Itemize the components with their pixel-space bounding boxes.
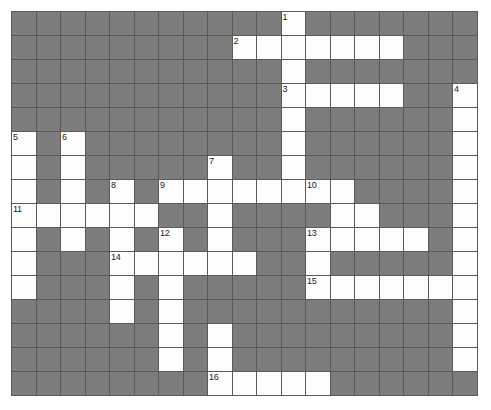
crossword-cell-open[interactable] (12, 276, 37, 300)
crossword-cell-open[interactable] (208, 324, 233, 348)
crossword-cell-open[interactable] (306, 372, 331, 396)
crossword-cell-open[interactable] (134, 252, 159, 276)
crossword-cell-open[interactable] (428, 276, 453, 300)
crossword-cell-open[interactable]: 2 (232, 36, 257, 60)
crossword-cell-open[interactable] (232, 252, 257, 276)
crossword-cell-open[interactable] (379, 228, 404, 252)
crossword-cell-open[interactable] (61, 156, 86, 180)
crossword-cell-open[interactable] (257, 36, 282, 60)
crossword-cell-open[interactable] (330, 36, 355, 60)
crossword-cell-block (428, 300, 453, 324)
crossword-cell-open[interactable]: 11 (12, 204, 37, 228)
crossword-cell-open[interactable]: 12 (159, 228, 184, 252)
crossword-cell-open[interactable] (208, 228, 233, 252)
crossword-cell-open[interactable] (159, 252, 184, 276)
crossword-cell-open[interactable] (208, 348, 233, 372)
crossword-cell-open[interactable] (453, 348, 478, 372)
crossword-cell-open[interactable] (453, 156, 478, 180)
crossword-cell-open[interactable] (159, 300, 184, 324)
crossword-cell-open[interactable]: 8 (110, 180, 135, 204)
crossword-cell-open[interactable]: 3 (281, 84, 306, 108)
crossword-cell-open[interactable] (453, 204, 478, 228)
crossword-cell-open[interactable]: 9 (159, 180, 184, 204)
crossword-cell-open[interactable] (453, 228, 478, 252)
crossword-cell-open[interactable]: 5 (12, 132, 37, 156)
crossword-cell-open[interactable] (85, 204, 110, 228)
crossword-cell-open[interactable] (183, 252, 208, 276)
crossword-cell-open[interactable]: 1 (281, 12, 306, 36)
crossword-cell-open[interactable] (281, 36, 306, 60)
crossword-cell-open[interactable] (281, 180, 306, 204)
crossword-cell-open[interactable] (61, 228, 86, 252)
crossword-cell-open[interactable]: 6 (61, 132, 86, 156)
crossword-cell-open[interactable]: 16 (208, 372, 233, 396)
crossword-cell-open[interactable] (379, 36, 404, 60)
crossword-cell-open[interactable] (281, 60, 306, 84)
crossword-cell-open[interactable] (110, 300, 135, 324)
crossword-cell-open[interactable] (453, 276, 478, 300)
crossword-cell-open[interactable]: 4 (453, 84, 478, 108)
crossword-cell-open[interactable] (379, 276, 404, 300)
crossword-cell-open[interactable] (281, 108, 306, 132)
crossword-cell-open[interactable] (355, 36, 380, 60)
crossword-row: 14 (12, 252, 478, 276)
crossword-cell-open[interactable] (306, 252, 331, 276)
crossword-cell-open[interactable] (257, 372, 282, 396)
crossword-cell-open[interactable] (12, 228, 37, 252)
crossword-cell-open[interactable] (110, 276, 135, 300)
crossword-cell-open[interactable] (453, 180, 478, 204)
crossword-cell-open[interactable] (330, 204, 355, 228)
crossword-cell-open[interactable]: 7 (208, 156, 233, 180)
crossword-cell-open[interactable] (404, 228, 429, 252)
crossword-cell-open[interactable] (379, 84, 404, 108)
crossword-cell-open[interactable] (281, 132, 306, 156)
crossword-cell-open[interactable] (453, 132, 478, 156)
crossword-cell-open[interactable] (330, 228, 355, 252)
crossword-cell-block (428, 132, 453, 156)
crossword-cell-open[interactable] (61, 180, 86, 204)
crossword-cell-open[interactable] (159, 348, 184, 372)
crossword-cell-open[interactable] (232, 372, 257, 396)
crossword-cell-open[interactable] (12, 252, 37, 276)
crossword-cell-open[interactable] (281, 156, 306, 180)
crossword-cell-open[interactable] (257, 180, 282, 204)
crossword-cell-open[interactable] (355, 84, 380, 108)
crossword-cell-open[interactable] (355, 228, 380, 252)
crossword-cell-open[interactable] (330, 276, 355, 300)
crossword-cell-open[interactable] (183, 180, 208, 204)
crossword-cell-open[interactable] (159, 324, 184, 348)
crossword-cell-open[interactable] (110, 228, 135, 252)
crossword-cell-open[interactable]: 10 (306, 180, 331, 204)
crossword-cell-open[interactable] (404, 276, 429, 300)
crossword-cell-open[interactable] (355, 276, 380, 300)
crossword-cell-open[interactable]: 13 (306, 228, 331, 252)
crossword-cell-open[interactable] (159, 276, 184, 300)
crossword-cell-open[interactable] (134, 204, 159, 228)
crossword-cell-open[interactable] (208, 252, 233, 276)
crossword-cell-open[interactable] (281, 372, 306, 396)
crossword-cell-open[interactable] (453, 252, 478, 276)
crossword-cell-open[interactable] (208, 204, 233, 228)
crossword-cell-open[interactable] (61, 204, 86, 228)
crossword-cell-open[interactable] (12, 156, 37, 180)
crossword-cell-open[interactable] (330, 180, 355, 204)
crossword-cell-open[interactable] (453, 324, 478, 348)
crossword-cell-open[interactable] (306, 36, 331, 60)
crossword-cell-block (355, 156, 380, 180)
crossword-cell-open[interactable] (453, 300, 478, 324)
crossword-cell-open[interactable]: 14 (110, 252, 135, 276)
crossword-cell-open[interactable] (330, 84, 355, 108)
crossword-cell-open[interactable] (208, 180, 233, 204)
crossword-cell-open[interactable] (12, 180, 37, 204)
crossword-cell-open[interactable] (453, 108, 478, 132)
crossword-cell-open[interactable] (355, 204, 380, 228)
crossword-grid[interactable]: 12345678910111213141516 (11, 11, 478, 396)
crossword-cell-open[interactable] (232, 180, 257, 204)
crossword-cell-open[interactable] (110, 204, 135, 228)
crossword-cell-block (183, 84, 208, 108)
crossword-cell-open[interactable] (36, 204, 61, 228)
crossword-cell-block (379, 252, 404, 276)
crossword-cell-open[interactable]: 15 (306, 276, 331, 300)
crossword-cell-open[interactable] (306, 84, 331, 108)
crossword-cell-block (257, 84, 282, 108)
